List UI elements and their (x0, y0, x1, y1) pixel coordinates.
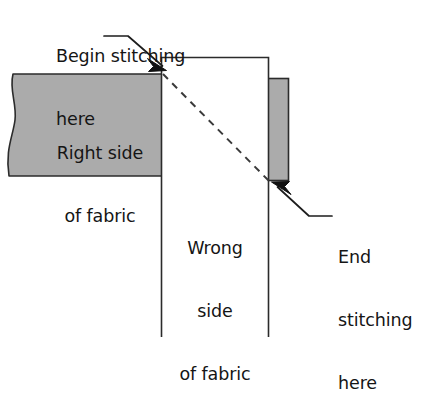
label-begin-stitching-line1: Begin stitching (56, 46, 185, 67)
right-gray-strip-shape (267, 79, 289, 181)
label-end-stitching-line2: stitching (338, 310, 413, 331)
end-stitching-leader (272, 182, 333, 217)
label-right-side-line2: of fabric (26, 206, 174, 227)
label-wrong-side-line3: of fabric (160, 364, 270, 385)
label-right-side-of-fabric: Right side of fabric (26, 101, 174, 269)
label-wrong-side-of-fabric: Wrong side of fabric (160, 196, 270, 393)
label-end-stitching: End stitching here (338, 205, 413, 393)
label-wrong-side-line1: Wrong (160, 238, 270, 259)
end-stitching-arrowhead (272, 182, 292, 195)
label-wrong-side-line2: side (160, 301, 270, 322)
label-right-side-line1: Right side (26, 143, 174, 164)
label-end-stitching-line3: here (338, 373, 413, 393)
label-end-stitching-line1: End (338, 247, 413, 268)
